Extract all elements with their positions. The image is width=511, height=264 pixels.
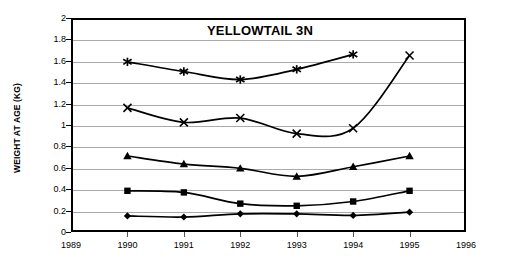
- data-point-square: [237, 200, 243, 206]
- chart-figure: WEIGHT AT AGE (KG) 00.20.40.60.811.21.41…: [0, 0, 511, 264]
- series-asterisk: [123, 50, 357, 84]
- data-point-square: [406, 188, 412, 194]
- data-point-diamond: [237, 210, 244, 217]
- series-line: [127, 156, 409, 176]
- series-cross: [123, 51, 413, 137]
- data-point-diamond: [180, 213, 187, 220]
- series-line: [127, 191, 409, 206]
- series-triangle: [123, 152, 414, 180]
- data-point-diamond: [124, 212, 131, 219]
- series-square: [124, 188, 413, 209]
- data-point-diamond: [350, 212, 357, 219]
- series-line: [127, 55, 409, 136]
- series-layer: [0, 0, 511, 264]
- data-point-triangle: [405, 152, 413, 159]
- series-diamond: [124, 209, 413, 221]
- data-point-diamond: [406, 209, 413, 216]
- data-point-square: [181, 189, 187, 195]
- data-point-cross: [349, 124, 357, 132]
- data-point-triangle: [123, 152, 131, 159]
- data-point-square: [124, 188, 130, 194]
- data-point-square: [294, 203, 300, 209]
- data-point-cross: [406, 51, 414, 59]
- data-point-square: [350, 198, 356, 204]
- data-point-diamond: [293, 210, 300, 217]
- series-line: [127, 212, 409, 217]
